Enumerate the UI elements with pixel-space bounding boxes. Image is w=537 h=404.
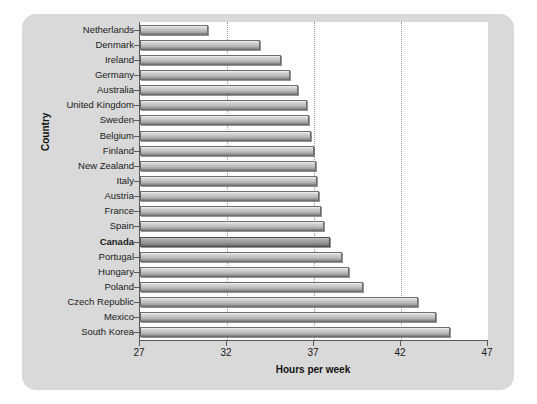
bar-row (140, 131, 311, 141)
bar-mexico (140, 312, 436, 322)
bar-row (140, 282, 363, 292)
bar-new-zealand (140, 161, 316, 171)
x-axis-ticks: 2732374247 (139, 341, 487, 365)
bar-belgium (140, 131, 311, 141)
bar-netherlands (140, 25, 208, 35)
bar-row (140, 25, 208, 35)
y-axis-tick (134, 60, 141, 61)
x-axis-ticklabel-42: 42 (394, 347, 405, 358)
bar-united-kingdom (140, 100, 307, 110)
y-axis-label-hungary: Hungary (46, 267, 134, 277)
bar-row (140, 267, 349, 277)
bar-portugal (140, 252, 342, 262)
y-axis-tick (134, 242, 141, 243)
y-axis-label-germany: Germany (46, 70, 134, 80)
bar-row (140, 176, 317, 186)
y-axis-label-belgium: Belgium (46, 131, 134, 141)
bar-row (140, 312, 436, 322)
y-axis-tick (134, 151, 141, 152)
bar-row (140, 55, 281, 65)
bar-row (140, 237, 330, 247)
y-axis-label-france: France (46, 206, 134, 216)
x-axis-ticklabel-47: 47 (481, 347, 492, 358)
bar-row (140, 191, 319, 201)
bar-germany (140, 70, 290, 80)
bar-row (140, 327, 450, 337)
x-axis-tick-32 (226, 341, 227, 346)
bar-row (140, 252, 342, 262)
bar-czech-republic (140, 297, 418, 307)
y-axis-tick (134, 120, 141, 121)
bar-row (140, 206, 321, 216)
y-axis-label-czech-republic: Czech Republic (46, 297, 134, 307)
x-axis-title: Hours per week (139, 364, 487, 375)
y-axis-tick (134, 30, 141, 31)
bar-denmark (140, 40, 260, 50)
x-axis-tick-27 (139, 341, 140, 346)
bar-row (140, 85, 298, 95)
y-axis-label-portugal: Portugal (46, 252, 134, 262)
bar-finland (140, 146, 314, 156)
y-axis-label-sweden: Sweden (46, 115, 134, 125)
y-axis-label-ireland: Ireland (46, 55, 134, 65)
y-axis-label-poland: Poland (46, 282, 134, 292)
y-axis-tick (134, 302, 141, 303)
bar-poland (140, 282, 363, 292)
y-axis-label-mexico: Mexico (46, 312, 134, 322)
y-axis-tick (134, 181, 141, 182)
y-axis-title: Country (40, 113, 51, 151)
y-axis-tick (134, 226, 141, 227)
bar-row (140, 297, 418, 307)
y-axis-tick (134, 136, 141, 137)
x-axis-tick-47 (487, 341, 488, 346)
y-axis-label-australia: Australia (46, 85, 134, 95)
y-axis-label-austria: Austria (46, 191, 134, 201)
y-axis-category-labels: NetherlandsDenmarkIrelandGermanyAustrali… (46, 22, 134, 340)
bar-row (140, 70, 290, 80)
y-axis-tick (134, 90, 141, 91)
bars-group (140, 22, 488, 340)
bar-row (140, 161, 316, 171)
y-axis-tick (134, 75, 141, 76)
y-axis-label-netherlands: Netherlands (46, 25, 134, 35)
y-axis-tick (134, 196, 141, 197)
y-axis-label-new-zealand: New Zealand (46, 161, 134, 171)
x-axis-tick-42 (400, 341, 401, 346)
y-axis-label-denmark: Denmark (46, 40, 134, 50)
y-axis-tick (134, 332, 141, 333)
bar-south-korea (140, 327, 450, 337)
y-axis-tick (134, 45, 141, 46)
bar-sweden (140, 115, 309, 125)
y-axis-tick (134, 105, 141, 106)
y-axis-label-finland: Finland (46, 146, 134, 156)
x-axis-ticklabel-27: 27 (133, 347, 144, 358)
bar-france (140, 206, 321, 216)
y-axis-label-united-kingdom: United Kingdom (46, 100, 134, 110)
y-axis-label-south-korea: South Korea (46, 327, 134, 337)
y-axis-label-italy: Italy (46, 176, 134, 186)
y-axis-tick (134, 317, 141, 318)
bar-australia (140, 85, 298, 95)
bar-row (140, 146, 314, 156)
x-axis-ticklabel-32: 32 (220, 347, 231, 358)
bar-row (140, 100, 307, 110)
y-axis-label-spain: Spain (46, 221, 134, 231)
bar-canada (140, 237, 330, 247)
bar-row (140, 40, 260, 50)
bar-spain (140, 221, 324, 231)
bar-chart-figure: NetherlandsDenmarkIrelandGermanyAustrali… (0, 0, 537, 404)
y-axis-label-canada: Canada (46, 237, 134, 247)
x-axis-ticklabel-37: 37 (307, 347, 318, 358)
bar-row (140, 115, 309, 125)
y-axis-tick (134, 257, 141, 258)
bar-row (140, 221, 324, 231)
bar-hungary (140, 267, 349, 277)
plot-area (139, 22, 488, 341)
bar-italy (140, 176, 317, 186)
bar-austria (140, 191, 319, 201)
bar-ireland (140, 55, 281, 65)
y-axis-tick (134, 166, 141, 167)
y-axis-tick (134, 272, 141, 273)
y-axis-tick (134, 287, 141, 288)
x-axis-tick-37 (313, 341, 314, 346)
